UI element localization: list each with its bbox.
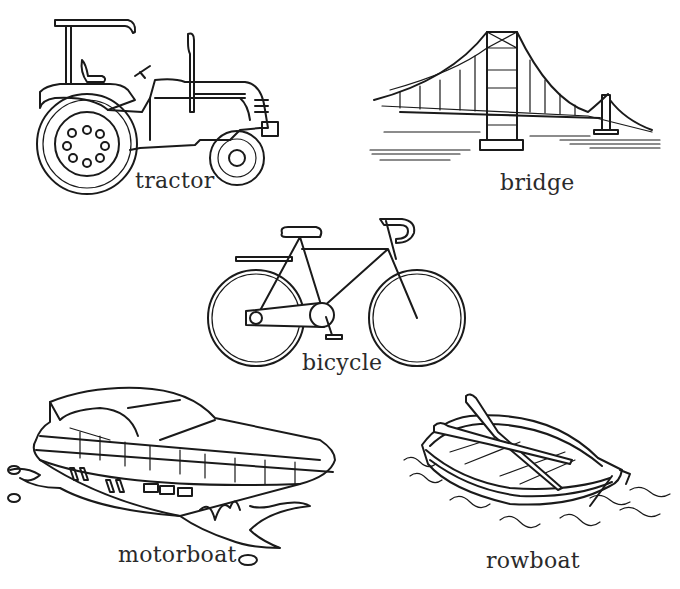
item-bicycle: bicycle (200, 205, 480, 375)
label-bridge: bridge (500, 170, 575, 195)
label-bicycle: bicycle (302, 350, 382, 375)
label-rowboat: rowboat (486, 548, 580, 573)
label-motorboat: motorboat (118, 542, 237, 567)
item-bridge: bridge (360, 20, 680, 200)
item-rowboat: rowboat (390, 380, 680, 589)
label-tractor: tractor (135, 168, 215, 193)
item-motorboat: motorboat (0, 380, 380, 589)
item-tractor: tractor (0, 0, 300, 200)
